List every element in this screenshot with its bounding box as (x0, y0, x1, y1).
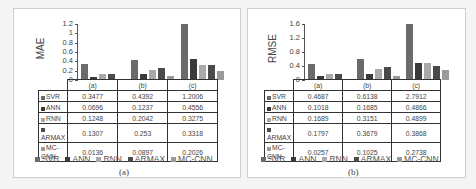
plot-area (78, 24, 228, 80)
bar-ann-2 (190, 59, 197, 80)
legend-label: ARMAX (135, 154, 165, 164)
column-header: (b) (343, 80, 392, 91)
legend-label: SVR (268, 154, 285, 164)
bar-svr-2 (181, 24, 188, 80)
series-name: SVR (272, 93, 286, 100)
series-name: ANN (272, 104, 286, 111)
table-row: SVR0.46870.61382.7912 (265, 91, 441, 102)
table-row: ARMAX0.17970.36790.3868 (265, 124, 441, 143)
rmse-chart-panel: RMSE 1.61.20.80.40 (a)(b)(c)SVR0.46870.6… (247, 8, 466, 178)
table-cell: 0.1237 (118, 102, 168, 113)
legend-item: RNN (322, 154, 347, 164)
y-tick-label: 1.6 (278, 20, 300, 28)
legend-swatch (267, 96, 271, 100)
y-axis-label: RMSE (267, 34, 278, 63)
table-cell: 0.0696 (68, 102, 118, 113)
table-row: SVR0.34770.43921.2006 (39, 91, 218, 102)
table-cell: 0.6138 (343, 91, 392, 102)
table-cell: 0.4392 (118, 91, 168, 102)
bar-svr-1 (131, 60, 138, 80)
table-cell: 0.4687 (294, 91, 343, 102)
table-row: RNN0.12480.20420.3275 (39, 113, 218, 124)
bar-rnn-2 (199, 65, 206, 80)
mae-chart-panel: MAE 1.210.80.60.40.20 (a)(b)(c)SVR0.3477… (13, 8, 241, 178)
table-cell: 0.1797 (294, 124, 343, 143)
legend-label: ARMAX (361, 154, 391, 164)
column-header: (c) (392, 80, 441, 91)
legend-swatch (41, 107, 45, 111)
y-tick-label: 0.8 (51, 39, 73, 47)
bar-svr-1 (357, 59, 364, 80)
table-cell: 0.3151 (343, 113, 392, 124)
bar-svr-0 (81, 64, 88, 80)
series-name: SVR (46, 93, 60, 100)
legend-swatch (291, 157, 296, 162)
legend-swatch (267, 147, 271, 151)
legend-swatch (171, 157, 176, 162)
legend-swatch (322, 157, 327, 162)
row-header: ARMAX (39, 124, 68, 143)
row-header: RNN (39, 113, 68, 124)
legend-item: SVR (35, 154, 59, 164)
legend-item: ANN (65, 154, 90, 164)
row-header: ARMAX (265, 124, 294, 143)
column-header: (b) (118, 80, 168, 91)
legend-swatch (41, 147, 45, 151)
table-cell: 0.1307 (68, 124, 118, 143)
table-row: ARMAX0.13070.2530.3318 (39, 124, 218, 143)
panel-caption: (a) (119, 167, 129, 177)
column-header: (a) (68, 80, 118, 91)
legend-item: MC-CNN (397, 154, 438, 164)
row-header: ANN (265, 102, 294, 113)
y-tick-label: 0.6 (51, 48, 73, 56)
table-cell: 0.1689 (294, 113, 343, 124)
series-name: RNN (272, 115, 287, 122)
row-header: RNN (265, 113, 294, 124)
legend-label: MC-CNN (178, 154, 212, 164)
data-table: (a)(b)(c)SVR0.34770.43921.2006ANN0.06960… (38, 79, 218, 162)
legend-swatch (128, 157, 133, 162)
table-cell: 0.3868 (392, 124, 441, 143)
legend-swatch (41, 96, 45, 100)
series-name: RNN (46, 115, 61, 122)
legend-swatch (65, 157, 70, 162)
y-tick-label: 1 (51, 29, 73, 37)
table-cell: 0.1248 (68, 113, 118, 124)
table-cell: 0.4899 (392, 113, 441, 124)
table-cell: 0.4866 (392, 102, 441, 113)
legend-item: RNN (96, 154, 121, 164)
legend-swatch (267, 118, 271, 122)
legend-item: ARMAX (128, 154, 165, 164)
legend-item: SVR (261, 154, 285, 164)
bar-mc-cnn-2 (442, 70, 449, 80)
legend-swatch (267, 128, 271, 132)
legend-item: MC-CNN (171, 154, 212, 164)
plot-area (305, 24, 453, 80)
bar-ann-2 (415, 63, 422, 80)
table-cell: 1.2006 (168, 91, 218, 102)
legend-swatch (35, 157, 40, 162)
row-header: ANN (39, 102, 68, 113)
table-cell: 0.253 (118, 124, 168, 143)
table-cell: 0.3477 (68, 91, 118, 102)
series-name: ARMAX (41, 134, 65, 141)
legend-label: RNN (103, 154, 121, 164)
legend-item: ARMAX (354, 154, 391, 164)
legend-swatch (96, 157, 101, 162)
y-axis-label: MAE (35, 38, 46, 60)
table-cell: 0.4556 (168, 102, 218, 113)
bar-svr-2 (406, 24, 413, 80)
legend-swatch (397, 157, 402, 162)
y-tick-label: 0.4 (51, 57, 73, 65)
row-header: SVR (265, 91, 294, 102)
y-tick-label: 1.2 (51, 20, 73, 28)
series-name: ARMAX (267, 134, 291, 141)
row-header: SVR (39, 91, 68, 102)
y-tick-label: 0.2 (51, 67, 73, 75)
bar-rnn-2 (424, 63, 431, 80)
legend-label: SVR (42, 154, 59, 164)
legend-swatch (261, 157, 266, 162)
table-cell: 0.2042 (118, 113, 168, 124)
table-row: RNN0.16890.31510.4899 (265, 113, 441, 124)
y-tick-label: 0.8 (278, 48, 300, 56)
